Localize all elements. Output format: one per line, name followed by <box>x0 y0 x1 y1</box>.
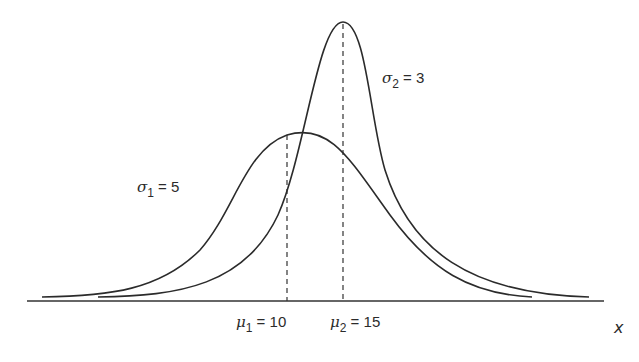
sigma-1-label: σ1 = 5 <box>137 179 179 199</box>
mu-symbol: μ <box>236 313 246 331</box>
sigma-2-value: = 3 <box>403 69 424 86</box>
mu-2-value: = 15 <box>351 313 381 330</box>
sigma-symbol: σ <box>382 69 392 87</box>
subscript: 2 <box>340 321 347 335</box>
mu-1-label: μ1 = 10 <box>236 314 286 334</box>
subscript: 1 <box>246 321 253 335</box>
sigma-symbol: σ <box>137 178 147 196</box>
sigma-1-value: = 5 <box>158 178 179 195</box>
mu-1-value: = 10 <box>257 313 287 330</box>
mu-2-label: μ2 = 15 <box>330 314 380 334</box>
normal-distributions-chart <box>0 0 639 362</box>
sigma-2-label: σ2 = 3 <box>382 70 424 90</box>
subscript: 2 <box>392 77 399 91</box>
mu-symbol: μ <box>330 313 340 331</box>
x-axis-label: x <box>614 318 623 337</box>
subscript: 1 <box>147 186 154 200</box>
